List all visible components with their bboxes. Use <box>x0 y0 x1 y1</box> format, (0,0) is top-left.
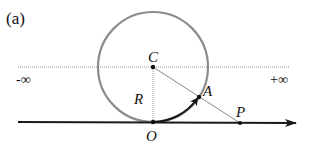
label-c: C <box>148 49 159 65</box>
point-c <box>151 65 155 69</box>
label-r: R <box>133 91 143 107</box>
stereographic-projection-diagram: (a) C R O A P -∞ +∞ <box>0 0 310 146</box>
label-neg-infinity: -∞ <box>16 72 31 87</box>
label-pos-infinity: +∞ <box>270 72 288 87</box>
point-o <box>151 120 155 124</box>
projection-ray <box>153 67 240 123</box>
point-a <box>197 95 201 99</box>
label-a: A <box>202 83 213 99</box>
label-o: O <box>146 128 157 144</box>
point-p <box>238 121 242 125</box>
label-p: P <box>235 104 245 120</box>
panel-label: (a) <box>6 9 25 28</box>
